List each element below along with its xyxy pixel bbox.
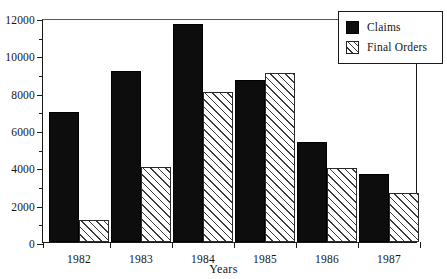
bar-claims-1982 bbox=[49, 112, 79, 242]
legend-item-final-orders[interactable]: Final Orders bbox=[346, 37, 436, 57]
bar-final-orders-1982 bbox=[79, 220, 109, 242]
x-axis-tick bbox=[234, 242, 235, 248]
y-axis-label: 10000 bbox=[5, 51, 35, 63]
legend-item-claims[interactable]: Claims bbox=[346, 17, 436, 37]
legend-label-final-orders: Final Orders bbox=[367, 41, 427, 53]
y-axis-label: 6000 bbox=[11, 126, 35, 138]
bar-final-orders-1985 bbox=[265, 73, 295, 242]
y-axis-label: 8000 bbox=[11, 89, 35, 101]
x-axis-tick-origin bbox=[43, 242, 44, 248]
bar-final-orders-1987 bbox=[389, 193, 419, 242]
y-axis-minor-tick bbox=[39, 113, 43, 114]
x-axis-tick bbox=[296, 242, 297, 248]
y-axis-tick bbox=[37, 95, 43, 96]
bar-final-orders-1986 bbox=[327, 168, 357, 242]
legend-swatch-claims-icon bbox=[346, 21, 359, 34]
x-axis-title: Years bbox=[0, 262, 447, 277]
y-axis-tick bbox=[37, 169, 43, 170]
bar-chart: 0200040006000800010000120001982198319841… bbox=[0, 0, 447, 279]
bar-claims-1985 bbox=[235, 80, 265, 242]
y-axis-minor-tick bbox=[39, 76, 43, 77]
bar-final-orders-1984 bbox=[203, 92, 233, 242]
y-axis-label: 12000 bbox=[5, 14, 35, 26]
legend-label-claims: Claims bbox=[367, 21, 401, 33]
bar-claims-1983 bbox=[111, 71, 141, 242]
y-axis-label: 2000 bbox=[11, 201, 35, 213]
bar-final-orders-1983 bbox=[141, 167, 171, 242]
bar-claims-1987 bbox=[359, 174, 389, 242]
x-axis-tick bbox=[358, 242, 359, 248]
bar-claims-1986 bbox=[297, 142, 327, 242]
y-axis-label: 0 bbox=[29, 238, 35, 250]
y-axis-minor-tick bbox=[39, 39, 43, 40]
y-axis-minor-tick bbox=[39, 151, 43, 152]
legend-swatch-final-orders-icon bbox=[346, 41, 359, 54]
x-axis-tick bbox=[172, 242, 173, 248]
y-axis-label: 4000 bbox=[11, 163, 35, 175]
y-axis-minor-tick bbox=[39, 188, 43, 189]
y-axis-tick bbox=[37, 57, 43, 58]
y-axis-tick bbox=[37, 207, 43, 208]
y-axis-tick bbox=[37, 20, 43, 21]
x-axis-tick bbox=[420, 242, 421, 248]
y-axis-tick bbox=[37, 132, 43, 133]
x-axis-tick bbox=[110, 242, 111, 248]
chart-legend: Claims Final Orders bbox=[338, 11, 443, 64]
bar-claims-1984 bbox=[173, 24, 203, 242]
y-axis-minor-tick bbox=[39, 225, 43, 226]
